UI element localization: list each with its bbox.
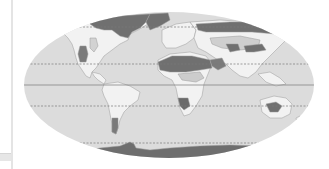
western-us-dry — [78, 46, 88, 62]
new-zealand — [296, 116, 302, 128]
siberia-tundra — [196, 22, 288, 34]
world-map — [0, 0, 329, 169]
